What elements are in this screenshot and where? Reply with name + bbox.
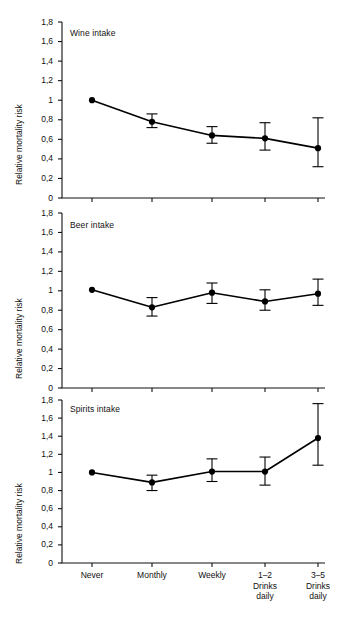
x-axis-tick-labels: NeverMonthlyWeekly1–2Drinksdaily3–5Drink…: [0, 570, 338, 630]
y-axis-tick-label: 1: [29, 286, 53, 295]
chart-panel-wine: Relative mortality risk 1,81,61,41,210,8…: [0, 0, 338, 205]
y-axis-tick-label: 1,6: [29, 414, 53, 423]
y-axis-tick-label: 0,2: [29, 540, 53, 549]
y-axis-tick-label: 1,8: [29, 396, 53, 405]
y-axis-tick-label: 1,2: [29, 267, 53, 276]
panel-title: Wine intake: [70, 28, 116, 38]
y-axis-tick-label: 1,4: [29, 247, 53, 256]
mortality-risk-figure: Relative mortality risk 1,81,61,41,210,8…: [0, 0, 338, 634]
y-axis-tick-label: 0,8: [29, 486, 53, 495]
y-axis-tick-label: 1,4: [29, 57, 53, 66]
y-axis-tick-label: 1,6: [29, 228, 53, 237]
y-axis-tick-labels: 1,81,61,41,210,80,60,40,20: [0, 388, 338, 573]
y-axis-tick-label: 1,8: [29, 209, 53, 218]
y-axis-tick-label: 1,2: [29, 76, 53, 85]
y-axis-tick-label: 0,4: [29, 154, 53, 163]
y-axis-tick-label: 1: [29, 96, 53, 105]
y-axis-tick-label: 0,6: [29, 504, 53, 513]
y-axis-tick-label: 0,8: [29, 306, 53, 315]
panel-title: Beer intake: [70, 220, 114, 230]
y-axis-tick-label: 0,2: [29, 364, 53, 373]
x-axis-tick-label: 3–5Drinksdaily: [278, 570, 338, 602]
y-axis-tick-label: 0,4: [29, 522, 53, 531]
y-axis-tick-labels: 1,81,61,41,210,80,60,40,20: [0, 0, 338, 205]
y-axis-tick-label: 1,4: [29, 432, 53, 441]
x-axis-tick-label-line: Drinks: [278, 581, 338, 592]
chart-panel-spirits: Relative mortality risk 1,81,61,41,210,8…: [0, 388, 338, 573]
y-axis-tick-label: 0,2: [29, 174, 53, 183]
y-axis-tick-label: 1: [29, 468, 53, 477]
x-axis-tick-label-line: daily: [278, 591, 338, 602]
panel-title: Spirits intake: [70, 404, 120, 414]
y-axis-tick-label: 0,6: [29, 135, 53, 144]
y-axis-tick-label: 1,8: [29, 18, 53, 27]
y-axis-tick-labels: 1,81,61,41,210,80,60,40,20: [0, 196, 338, 396]
y-axis-tick-label: 0,6: [29, 325, 53, 334]
y-axis-tick-label: 1,6: [29, 37, 53, 46]
y-axis-tick-label: 0,8: [29, 115, 53, 124]
y-axis-tick-label: 1,2: [29, 450, 53, 459]
y-axis-tick-label: 0,4: [29, 345, 53, 354]
x-axis-tick-label-line: 3–5: [278, 570, 338, 581]
chart-panel-beer: Relative mortality risk 1,81,61,41,210,8…: [0, 196, 338, 396]
y-axis-tick-label: 0: [29, 559, 53, 568]
